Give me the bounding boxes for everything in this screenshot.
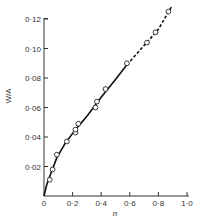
x-tick-label: 0·6: [124, 199, 136, 208]
data-point: [93, 105, 98, 110]
y-tick-label: 0·04: [25, 133, 42, 142]
y-axis-label: W/A: [4, 88, 13, 104]
data-point: [125, 61, 130, 66]
data-point: [95, 99, 100, 104]
data-point: [50, 167, 55, 172]
x-tick-label: 0·2: [67, 199, 79, 208]
data-point: [73, 127, 78, 132]
data-point: [47, 177, 52, 182]
y-tick-label: 0·06: [25, 104, 42, 113]
y-tick-label: 0·10: [25, 45, 42, 54]
x-axis: 00·20·40·60·81·0 n: [42, 192, 194, 218]
curves: [44, 7, 171, 196]
fitted-curve-solid: [44, 65, 127, 196]
chart: 0·020·040·060·080·100·12 W/A 00·20·40·60…: [0, 0, 205, 223]
x-axis-label: n: [113, 209, 118, 218]
y-tick-label: 0·02: [25, 163, 42, 172]
x-tick-label: 1·0: [181, 199, 193, 208]
data-point: [153, 30, 158, 35]
data-point: [76, 121, 81, 126]
y-axis: 0·020·040·060·080·100·12 W/A: [4, 15, 48, 196]
data-point: [166, 9, 171, 14]
data-point: [64, 139, 69, 144]
data-point: [103, 87, 108, 92]
x-tick-label: 0: [42, 199, 47, 208]
data-points: [47, 9, 170, 182]
x-tick-label: 0·8: [153, 199, 165, 208]
y-tick-label: 0·08: [25, 74, 42, 83]
fitted-curve-dashed: [127, 7, 171, 65]
x-tick-label: 0·4: [95, 199, 107, 208]
data-point: [54, 152, 59, 157]
data-point: [145, 40, 150, 45]
y-tick-label: 0·12: [25, 15, 42, 24]
